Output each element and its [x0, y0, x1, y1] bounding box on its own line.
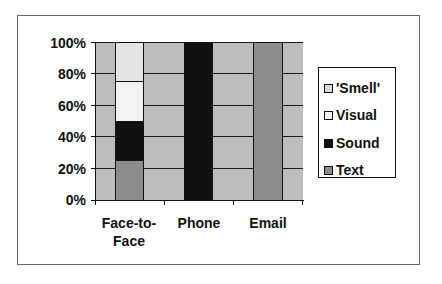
x-label-face-to-face: Face-to- Face: [102, 214, 156, 250]
segment-sound: [185, 42, 212, 200]
x-label-phone: Phone: [178, 214, 221, 232]
y-tick: [91, 136, 96, 137]
legend-swatch-text: [324, 166, 333, 175]
x-label-email: Email: [249, 214, 286, 232]
legend-label-smell: 'Smell': [336, 80, 380, 96]
legend-swatch-visual: [324, 111, 333, 120]
legend-label-sound: Sound: [336, 135, 380, 151]
y-label-80: 80%: [58, 66, 86, 82]
y-tick: [91, 73, 96, 74]
legend-swatch-sound: [324, 139, 333, 148]
plot-area: [95, 42, 303, 200]
segment-text: [254, 42, 282, 200]
legend-item-sound: Sound: [324, 135, 380, 151]
bar-phone: [184, 42, 213, 200]
bar-email: [253, 42, 283, 200]
y-tick: [91, 42, 96, 43]
bar-face-to-face: [115, 42, 144, 200]
x-tick: [233, 200, 234, 205]
segment-sound: [116, 121, 143, 160]
y-label-40: 40%: [58, 129, 86, 145]
legend-swatch-smell: [324, 84, 333, 93]
x-axis: [91, 200, 304, 201]
x-tick: [164, 200, 165, 205]
legend-label-text: Text: [336, 162, 364, 178]
y-label-100: 100%: [50, 35, 86, 51]
x-tick: [95, 200, 96, 205]
legend-label-visual: Visual: [336, 107, 377, 123]
x-tick: [302, 200, 303, 205]
y-label-0: 0%: [66, 192, 86, 208]
segment-visual: [116, 81, 143, 121]
segment-smell: [116, 42, 143, 81]
y-tick: [91, 105, 96, 106]
y-label-60: 60%: [58, 98, 86, 114]
legend-item-smell: 'Smell': [324, 80, 380, 96]
y-tick: [91, 168, 96, 169]
legend-item-text: Text: [324, 162, 364, 178]
legend-item-visual: Visual: [324, 107, 377, 123]
segment-text: [116, 160, 143, 200]
y-label-20: 20%: [58, 161, 86, 177]
legend: 'Smell' Visual Sound Text: [318, 67, 396, 178]
y-axis: [95, 42, 96, 201]
